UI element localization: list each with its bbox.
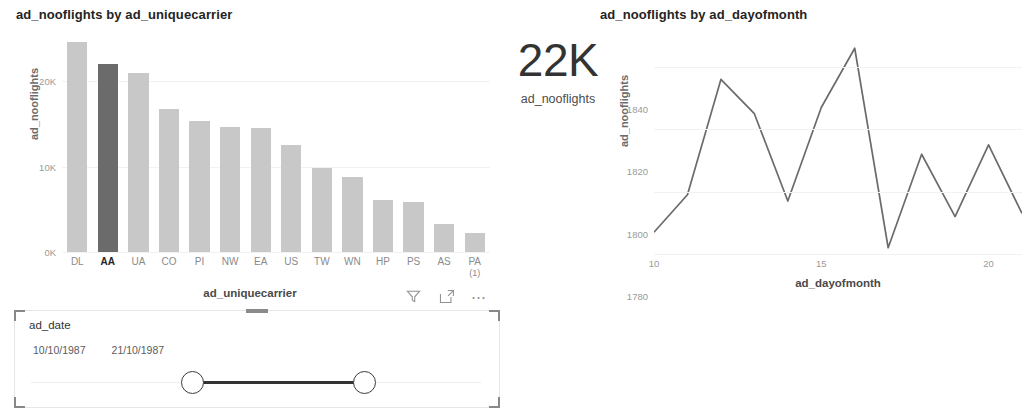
- slicer-selected-range: [189, 381, 364, 384]
- slicer-handle-right[interactable]: [353, 371, 376, 394]
- bar-nw[interactable]: [220, 127, 240, 252]
- bar-chart-title: ad_nooflights by ad_uniquecarrier: [16, 7, 232, 22]
- bar-as[interactable]: [434, 224, 454, 252]
- x-axis-tick-label-aa[interactable]: AA: [93, 256, 124, 267]
- line-chart-series: [654, 42, 1022, 254]
- line-chart-title: ad_nooflights by ad_dayofmonth: [600, 7, 807, 22]
- slicer-date-values: 10/10/1987 21/10/1987: [33, 344, 164, 356]
- bar-pa[interactable]: [465, 233, 485, 252]
- x-axis-tick-label-wn[interactable]: WN: [337, 256, 368, 267]
- bar-chart-visual[interactable]: ad_nooflights by ad_uniquecarrier ad_noo…: [0, 0, 500, 305]
- slicer-selection-handle-bottom-right[interactable]: [489, 397, 500, 408]
- x-axis-tick-label-us[interactable]: US: [276, 256, 307, 267]
- slicer-end-date[interactable]: 21/10/1987: [112, 344, 165, 356]
- line-chart-plot-area: [654, 42, 1022, 254]
- slicer-selection-handle-top-right[interactable]: [489, 310, 500, 321]
- bar-chart-y-ticks: 0K10K20K: [20, 30, 56, 252]
- more-options-icon[interactable]: ⋯: [471, 288, 488, 305]
- line-chart-x-ticks: 101520: [654, 258, 1022, 274]
- x-axis-tick-label: 10: [634, 258, 674, 269]
- bar-aa[interactable]: [98, 64, 118, 252]
- x-axis-tick-label-ua[interactable]: UA: [123, 256, 154, 267]
- date-slicer-visual[interactable]: ad_date 10/10/1987 21/10/1987: [14, 310, 500, 408]
- slicer-selection-handle-top-left[interactable]: [14, 310, 25, 321]
- slicer-resize-grip-top[interactable]: [246, 309, 268, 313]
- bar-ps[interactable]: [403, 202, 423, 252]
- bar-ea[interactable]: [251, 128, 271, 252]
- bar-chart-x-ticks: DLAAUACOPINWEAUSTWWNHPPSASPA(1): [62, 256, 490, 288]
- line-chart-visual[interactable]: ad_nooflights by ad_dayofmonth ad_noofli…: [596, 0, 1026, 305]
- x-axis-tick-label-pi[interactable]: PI: [184, 256, 215, 267]
- gridline: [654, 192, 1022, 193]
- bar-tw[interactable]: [312, 168, 332, 252]
- gridline: [62, 252, 490, 253]
- slicer-range-slider[interactable]: [31, 371, 481, 395]
- gridline: [654, 254, 1022, 255]
- line-chart-y-ticks: 1780180018201840: [610, 42, 648, 254]
- x-axis-tick-sublabel: (1): [459, 268, 490, 278]
- bar-co[interactable]: [159, 109, 179, 252]
- x-axis-tick-label-as[interactable]: AS: [429, 256, 460, 267]
- filter-funnel-icon[interactable]: [405, 288, 422, 305]
- y-axis-tick-label: 10K: [39, 161, 56, 172]
- bar-wn[interactable]: [342, 177, 362, 252]
- bar-dl[interactable]: [67, 42, 87, 252]
- focus-mode-icon[interactable]: [438, 288, 455, 305]
- gridline: [654, 67, 1022, 68]
- y-axis-tick-label: 1840: [627, 103, 648, 114]
- bar-chart-plot-area: [62, 30, 490, 252]
- gridline: [654, 129, 1022, 130]
- bar-us[interactable]: [281, 145, 301, 252]
- x-axis-tick-label-nw[interactable]: NW: [215, 256, 246, 267]
- x-axis-tick-label-tw[interactable]: TW: [307, 256, 338, 267]
- x-axis-tick-label-dl[interactable]: DL: [62, 256, 93, 267]
- bar-pi[interactable]: [189, 121, 209, 252]
- slicer-start-date[interactable]: 10/10/1987: [33, 344, 86, 356]
- y-axis-tick-label: 1780: [627, 291, 648, 302]
- slicer-handle-left[interactable]: [181, 371, 204, 394]
- visual-toolbar: ⋯: [405, 288, 488, 305]
- y-axis-tick-label: 1800: [627, 228, 648, 239]
- bar-ua[interactable]: [128, 73, 148, 252]
- gridline: [62, 81, 490, 82]
- line-series-path: [654, 48, 1022, 248]
- bar-hp[interactable]: [373, 200, 393, 252]
- x-axis-tick-label: 20: [969, 258, 1009, 269]
- x-axis-tick-label-pa[interactable]: PA(1): [459, 256, 490, 278]
- x-axis-tick-label-hp[interactable]: HP: [368, 256, 399, 267]
- line-chart-x-axis-title: ad_dayofmonth: [654, 277, 1022, 289]
- y-axis-tick-label: 0K: [44, 247, 56, 258]
- y-axis-tick-label: 20K: [39, 76, 56, 87]
- x-axis-tick-label-co[interactable]: CO: [154, 256, 185, 267]
- x-axis-tick-label: 15: [801, 258, 841, 269]
- slicer-field-label: ad_date: [29, 319, 71, 331]
- report-canvas: ad_nooflights by ad_uniquecarrier ad_noo…: [0, 0, 1026, 408]
- y-axis-tick-label: 1820: [627, 166, 648, 177]
- x-axis-tick-label-ea[interactable]: EA: [245, 256, 276, 267]
- gridline: [62, 167, 490, 168]
- x-axis-tick-label-ps[interactable]: PS: [398, 256, 429, 267]
- slicer-selection-handle-bottom-left[interactable]: [14, 397, 25, 408]
